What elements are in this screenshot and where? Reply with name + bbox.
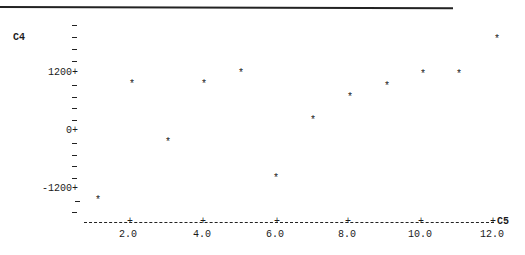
data-point-8: * xyxy=(345,93,355,103)
y-tick-label-neg1200: -1200+ xyxy=(8,184,78,194)
character-scatter-plot: C4 1200+ 0+ -1200+ + + + + + + C5 2.0 4.… xyxy=(0,0,525,255)
y-minor-tick xyxy=(72,212,77,213)
data-point-9: * xyxy=(382,82,392,92)
y-tick-label-0: 0+ xyxy=(8,126,78,136)
y-minor-tick xyxy=(75,201,80,202)
x-tick-mark: + xyxy=(273,217,281,227)
x-tick-mark: + xyxy=(344,217,352,227)
x-tick-mark: + xyxy=(417,217,425,227)
y-minor-tick xyxy=(72,143,77,144)
y-minor-tick xyxy=(72,25,77,26)
y-minor-tick xyxy=(72,49,77,50)
x-tick-label-10: 10.0 xyxy=(400,230,440,240)
x-tick-mark: + xyxy=(199,217,207,227)
data-point-3: * xyxy=(163,138,173,148)
y-minor-tick xyxy=(72,155,77,156)
y-minor-tick xyxy=(72,61,77,62)
data-point-1: * xyxy=(93,196,103,206)
x-tick-label-4: 4.0 xyxy=(182,230,222,240)
y-axis-label: C4 xyxy=(13,33,25,43)
y-minor-tick xyxy=(72,178,77,179)
data-point-4: * xyxy=(199,80,209,90)
y-minor-tick xyxy=(72,108,77,109)
data-point-12: * xyxy=(492,35,502,45)
data-point-6: * xyxy=(271,174,281,184)
data-point-5: * xyxy=(236,69,246,79)
x-axis-label: C5 xyxy=(497,217,509,227)
x-tick-label-12: 12.0 xyxy=(472,230,512,240)
y-minor-tick xyxy=(72,166,77,167)
y-tick-label-1200: 1200+ xyxy=(8,68,78,78)
data-point-7: * xyxy=(308,116,318,126)
x-axis-line xyxy=(84,222,494,223)
y-minor-tick xyxy=(72,85,77,86)
data-point-11: * xyxy=(454,70,464,80)
top-rule-line xyxy=(0,6,453,9)
x-tick-mark: + xyxy=(489,217,497,227)
x-tick-label-6: 6.0 xyxy=(255,230,295,240)
y-minor-tick xyxy=(72,37,77,38)
y-minor-tick xyxy=(72,120,77,121)
x-tick-label-2: 2.0 xyxy=(108,230,148,240)
data-point-2: * xyxy=(127,80,137,90)
y-minor-tick xyxy=(72,97,77,98)
data-point-10: * xyxy=(418,70,428,80)
x-tick-mark: + xyxy=(126,217,134,227)
x-tick-label-8: 8.0 xyxy=(327,230,367,240)
